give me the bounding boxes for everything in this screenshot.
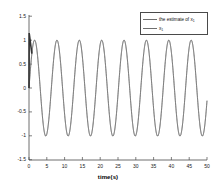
legend-swatch-line bbox=[143, 19, 157, 20]
y-tick-label: 0 bbox=[5, 86, 26, 91]
legend-box: the estimate of x1 x1 bbox=[140, 12, 208, 35]
y-tick-label: 1.5 bbox=[5, 14, 26, 19]
legend-swatch-line bbox=[143, 28, 157, 29]
series-line-true-state bbox=[29, 40, 207, 136]
y-tick-label: -1.5 bbox=[5, 157, 26, 162]
y-tick-label: 0.5 bbox=[5, 62, 26, 67]
legend-label-true-state-sub: 1 bbox=[161, 28, 163, 32]
legend-item-true-state: x1 bbox=[143, 24, 205, 33]
y-tick-label: -1 bbox=[5, 133, 26, 138]
legend-label-estimate-sub: 1 bbox=[193, 19, 195, 23]
legend-label-true-state: x1 bbox=[159, 26, 163, 31]
legend-label-estimate: the estimate of x1 bbox=[159, 17, 195, 22]
chart-figure: 1.5 1 0.5 0 -0.5 -1 -1.5 0 5 10 15 20 25… bbox=[0, 0, 216, 189]
series-line-estimate bbox=[29, 40, 207, 136]
legend-label-estimate-text: the estimate of x bbox=[159, 17, 193, 22]
x-axis-label: time(s) bbox=[0, 174, 216, 180]
y-tick-label: -0.5 bbox=[5, 109, 26, 114]
x-tick-label: 50 bbox=[197, 164, 216, 169]
legend-item-estimate: the estimate of x1 bbox=[143, 15, 205, 24]
x-tick-marks bbox=[29, 157, 207, 160]
y-tick-label: 1 bbox=[5, 38, 26, 43]
